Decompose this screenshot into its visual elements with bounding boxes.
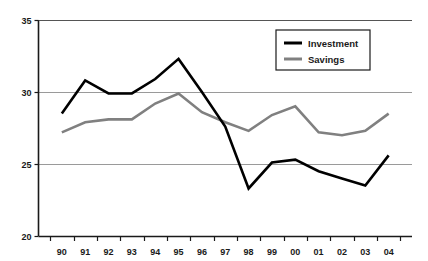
x-axis-tick-label: 04	[384, 247, 394, 257]
x-axis-tick-label: 99	[267, 247, 277, 257]
y-axis-tick-label: 35	[21, 16, 31, 26]
x-axis-tick-label: 01	[314, 247, 324, 257]
x-axis-tick-label: 90	[57, 247, 67, 257]
y-axis-tick-label: 20	[21, 232, 31, 242]
x-axis-tick-label: 97	[220, 247, 230, 257]
chart-canvas: 20253035 909192939495969798990001020304 …	[0, 0, 428, 261]
x-axis-tick-label: 93	[127, 247, 137, 257]
y-axis-tick-label: 25	[21, 160, 31, 170]
x-axis-tick-label: 03	[360, 247, 370, 257]
x-axis-tick-label: 00	[290, 247, 300, 257]
x-axis-tick-label: 95	[174, 247, 184, 257]
x-axis-tick-label: 98	[244, 247, 254, 257]
x-axis-tick-label: 94	[150, 247, 160, 257]
x-axis-tick-label: 02	[337, 247, 347, 257]
y-axis-tick-label: 30	[21, 88, 31, 98]
x-axis-tick-label: 92	[104, 247, 114, 257]
chart-legend: InvestmentSavings	[276, 30, 370, 70]
legend-label-investment: Investment	[308, 38, 359, 49]
x-axis-tick-label: 96	[197, 247, 207, 257]
line-chart: 20253035 909192939495969798990001020304 …	[0, 0, 428, 261]
legend-label-savings: Savings	[308, 54, 344, 65]
x-axis-tick-label: 91	[80, 247, 90, 257]
x-axis-tick-labels: 909192939495969798990001020304	[57, 247, 394, 257]
